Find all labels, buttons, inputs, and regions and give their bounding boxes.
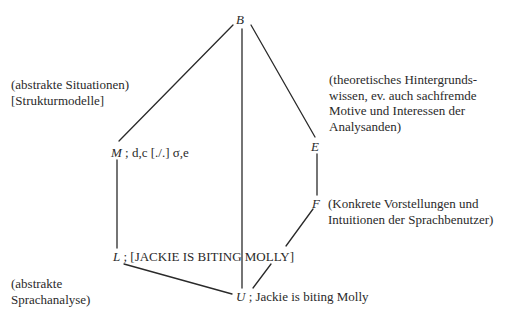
edge-f-u-upper bbox=[286, 209, 313, 246]
node-u-label: ; Jackie is biting Molly bbox=[245, 289, 368, 304]
annotation-line: Intuitionen der Sprachbenutzer) bbox=[328, 212, 493, 228]
node-b-symbol: B bbox=[236, 12, 244, 27]
node-m: M ; d,c [./.] σ,e bbox=[111, 145, 189, 160]
diagram-edges bbox=[0, 0, 507, 320]
edge-b-m bbox=[119, 25, 233, 141]
annotation-line: Sprachanalyse) bbox=[11, 292, 90, 308]
node-m-label: ; d,c [./.] σ,e bbox=[122, 145, 189, 160]
edge-l-u bbox=[124, 264, 232, 294]
annotation-line: Motive und Interessen der bbox=[329, 103, 477, 119]
node-l-label: ; [JACKIE IS BITING MOLLY] bbox=[120, 249, 294, 264]
edge-f-u-lower bbox=[253, 264, 271, 288]
node-b: B bbox=[236, 12, 244, 27]
annotation-line: (abstrakte Situationen) bbox=[11, 77, 129, 93]
annotation-line: (Konkrete Vorstellungen und bbox=[328, 196, 493, 212]
node-e: E bbox=[311, 139, 319, 154]
annotation-abstract-situations: (abstrakte Situationen) [Strukturmodelle… bbox=[11, 77, 129, 108]
node-l: L ; [JACKIE IS BITING MOLLY] bbox=[113, 249, 294, 264]
node-f-symbol: F bbox=[312, 196, 320, 211]
node-e-symbol: E bbox=[311, 139, 319, 154]
annotation-abstract-language-analysis: (abstrakte Sprachanalyse) bbox=[11, 276, 90, 307]
node-f: F bbox=[312, 196, 320, 211]
node-u: U ; Jackie is biting Molly bbox=[236, 289, 369, 304]
annotation-line: Analysanden) bbox=[329, 119, 477, 135]
node-m-symbol: M bbox=[111, 145, 122, 160]
annotation-line: (abstrakte bbox=[11, 276, 90, 292]
annotation-theoretical-background: (theoretisches Hintergrunds- wissen, ev.… bbox=[329, 72, 477, 134]
diagram-canvas: B M ; d,c [./.] σ,e E F L ; [JACKIE IS B… bbox=[0, 0, 507, 320]
edge-b-e bbox=[251, 25, 315, 137]
node-u-symbol: U bbox=[236, 289, 245, 304]
annotation-concrete-intuitions: (Konkrete Vorstellungen und Intuitionen … bbox=[328, 196, 493, 227]
annotation-line: [Strukturmodelle] bbox=[11, 93, 129, 109]
annotation-line: wissen, ev. auch sachfremde bbox=[329, 88, 477, 104]
annotation-line: (theoretisches Hintergrunds- bbox=[329, 72, 477, 88]
